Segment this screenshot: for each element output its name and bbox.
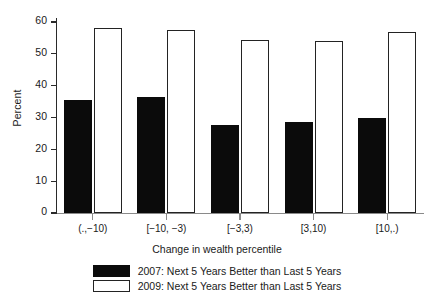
x-axis-tick — [387, 214, 388, 220]
y-axis-tick-label: 30 — [35, 110, 47, 122]
bar-2007-group-4 — [285, 122, 313, 213]
legend-item: 2007: Next 5 Years Better than Last 5 Ye… — [93, 265, 342, 277]
x-axis-tick — [92, 214, 93, 220]
legend-label: 2007: Next 5 Years Better than Last 5 Ye… — [138, 265, 342, 277]
bar-2009-group-5 — [388, 32, 416, 213]
y-axis-tick-label: 0 — [41, 205, 47, 217]
x-axis-tick-label: [3,10) — [301, 223, 327, 234]
y-axis-tick-label: 40 — [35, 78, 47, 90]
bar-2007-group-3 — [211, 125, 239, 213]
y-axis-title-text: Percent — [11, 89, 23, 126]
bar-2009-group-3 — [241, 40, 269, 213]
legend-swatch-2009 — [93, 280, 130, 292]
y-axis-tick-label: 60 — [35, 14, 47, 26]
bar-2009-group-1 — [94, 28, 122, 213]
y-axis-tick-label: 20 — [35, 142, 47, 154]
y-axis-tick: 10 — [51, 181, 57, 182]
bar-2009-group-4 — [315, 41, 343, 213]
bar-2007-group-2 — [137, 97, 165, 213]
y-axis-tick-label: 50 — [35, 46, 47, 58]
y-axis-tick: 40 — [51, 85, 57, 86]
x-axis-title: Change in wealth percentile — [0, 243, 434, 255]
chart-legend: 2007: Next 5 Years Better than Last 5 Ye… — [0, 265, 434, 292]
bar-2007-group-1 — [64, 100, 92, 213]
x-axis-tick-label: (.,−10) — [78, 223, 107, 234]
bar-chart-figure: Percent 0102030405060 (.,−10)[−10, −3)[−… — [0, 0, 434, 307]
y-axis-title: Percent — [6, 0, 28, 215]
x-axis-tick — [239, 214, 240, 220]
x-axis-tick — [166, 214, 167, 220]
legend-item: 2009: Next 5 Years Better than Last 5 Ye… — [93, 280, 342, 292]
y-axis-line — [56, 18, 57, 213]
y-axis-tick: 0 — [51, 212, 57, 213]
y-axis-tick: 30 — [51, 117, 57, 118]
bar-2009-group-2 — [167, 30, 195, 213]
x-axis-tick-label: [10,.) — [376, 223, 399, 234]
plot-area: 0102030405060 (.,−10)[−10, −3)[−3,3)[3,1… — [56, 10, 424, 215]
x-axis-tick-label: [−3,3) — [227, 223, 253, 234]
bar-2007-group-5 — [358, 118, 386, 213]
y-axis-tick: 20 — [51, 149, 57, 150]
legend-swatch-2007 — [93, 265, 130, 277]
y-axis-tick: 60 — [51, 21, 57, 22]
x-axis-tick — [313, 214, 314, 220]
x-axis-tick-label: [−10, −3) — [146, 223, 186, 234]
y-axis-tick: 50 — [51, 53, 57, 54]
legend-label: 2009: Next 5 Years Better than Last 5 Ye… — [138, 280, 342, 292]
y-axis-tick-label: 10 — [35, 174, 47, 186]
